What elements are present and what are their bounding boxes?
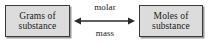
grams-of-substance-box: Grams of substance xyxy=(5,5,70,37)
moles-of-substance-box: Moles of substance xyxy=(139,5,203,37)
grams-box-line-2: substance xyxy=(19,21,57,31)
double-headed-arrow-icon xyxy=(73,14,136,28)
connector-label-mass: mass xyxy=(74,28,136,38)
moles-box-line-2: substance xyxy=(152,21,190,31)
moles-box-line-1: Moles of xyxy=(154,11,189,21)
conversion-diagram: Grams of substance molar mass Moles of s… xyxy=(0,0,208,42)
grams-box-line-1: Grams of xyxy=(19,11,55,21)
connector-label-molar: molar xyxy=(74,2,136,12)
